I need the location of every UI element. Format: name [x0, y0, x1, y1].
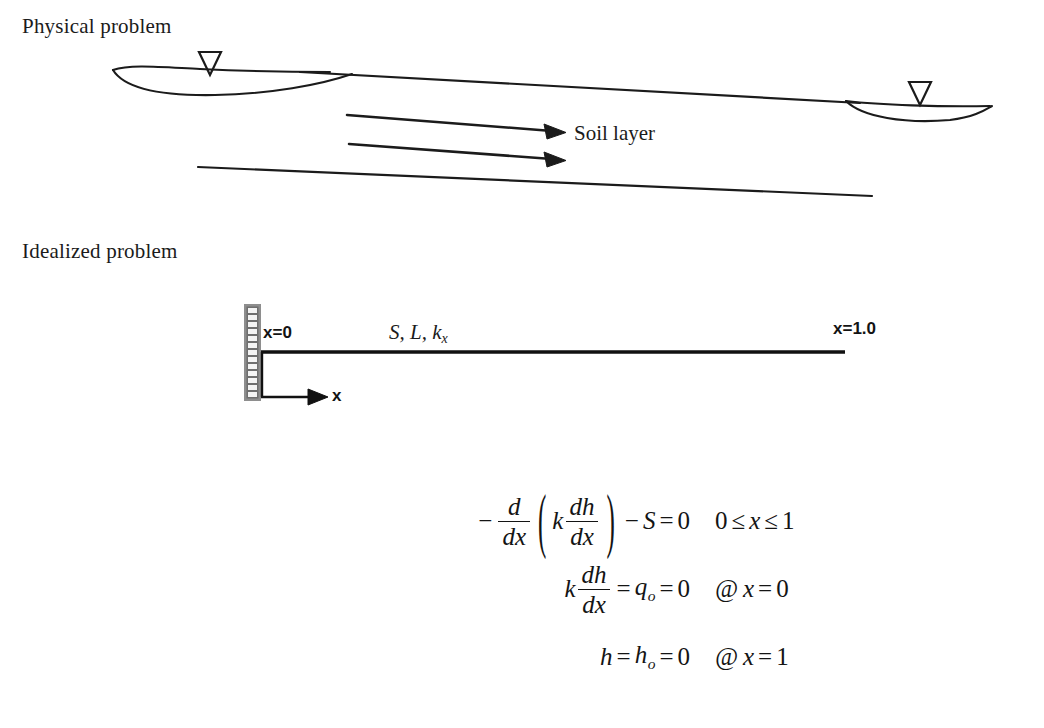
neumann-dx-denominator: dx [578, 589, 610, 618]
neumann-at-variable: x [743, 575, 754, 603]
beam-properties-label: S, L, kx [389, 320, 448, 347]
hatched-fixed-support-icon [244, 304, 261, 401]
source-term-S: S [643, 507, 656, 535]
dirichlet-equals-1: = [613, 643, 635, 671]
paren-close: ) [606, 481, 614, 561]
equals-sign-1: = [655, 507, 677, 535]
neumann-k: k [564, 575, 575, 603]
second-minus-sign: − [621, 507, 643, 535]
d-dx-numerator: d [504, 493, 525, 521]
dh-dx-numerator: dh [565, 493, 598, 521]
flux-q-base: q [635, 573, 648, 600]
neumann-rhs-zero: 0 [678, 575, 691, 603]
domain-variable: x [749, 507, 760, 535]
head-h-naught-subscript: o [647, 655, 655, 672]
neumann-equation-math: k dh dx = qo = 0 [564, 561, 690, 618]
neumann-equals-2: = [655, 575, 677, 603]
diagram-page: Physical problem Soil layer Idealized pr… [0, 0, 1044, 728]
x-zero-boundary-label: x=0 [263, 323, 292, 343]
domain-upper-bound: 1 [782, 507, 795, 535]
dirichlet-at-variable: x [743, 643, 754, 671]
beam-properties-subscript: x [442, 331, 448, 346]
flux-q: qo [635, 573, 656, 604]
governing-equation-expression: − d dx ( k dh dx ) − S = 0 [0, 493, 690, 550]
paren-open: ( [538, 481, 546, 561]
dirichlet-at-equals: = [754, 643, 776, 671]
beam-properties-base: S, L, k [389, 320, 442, 344]
neumann-at-value: 0 [776, 575, 789, 603]
neumann-at-equals: = [754, 575, 776, 603]
governing-equation-math: − d dx ( k dh dx ) − S = 0 [474, 493, 690, 550]
domain-lower-bound: 0 [715, 507, 728, 535]
head-h: h [600, 643, 613, 671]
neumann-at-math: @ x = 0 [715, 575, 789, 603]
head-h-naught-base: h [635, 641, 648, 668]
neumann-equation-expression: k dh dx = qo = 0 [0, 561, 690, 618]
dh-dx-fraction: dh dx [565, 493, 598, 550]
equation-row-neumann: k dh dx = qo = 0 @ x = 0 [0, 555, 1044, 623]
dirichlet-equation-math: h = ho = 0 [600, 641, 690, 672]
neumann-dh-numerator: dh [578, 561, 611, 589]
dh-dx-denominator: dx [566, 521, 598, 550]
equation-row-dirichlet: h = ho = 0 @ x = 1 [0, 623, 1044, 691]
dirichlet-rhs-zero: 0 [678, 643, 691, 671]
x-axis-label: x [332, 386, 341, 406]
less-equal-1: ≤ [728, 507, 750, 535]
head-h-naught: ho [635, 641, 656, 672]
rhs-zero-1: 0 [678, 507, 691, 535]
neumann-condition-location: @ x = 0 [690, 575, 990, 603]
d-dx-fraction-1: d dx [498, 493, 530, 550]
equation-row-governing: − d dx ( k dh dx ) − S = 0 [0, 487, 1044, 555]
permeability-k: k [552, 507, 563, 535]
equation-block: − d dx ( k dh dx ) − S = 0 [0, 487, 1044, 691]
neumann-dh-dx-fraction: dh dx [578, 561, 611, 618]
dirichlet-at-value: 1 [776, 643, 789, 671]
dirichlet-equals-2: = [655, 643, 677, 671]
less-equal-2: ≤ [760, 507, 782, 535]
governing-equation-domain: 0 ≤ x ≤ 1 [690, 507, 990, 535]
at-symbol-1: @ [715, 575, 743, 603]
flux-q-subscript: o [647, 587, 655, 604]
domain-range-math: 0 ≤ x ≤ 1 [715, 507, 795, 535]
d-dx-denominator: dx [498, 521, 530, 550]
leading-minus-sign: − [474, 507, 496, 535]
dirichlet-at-math: @ x = 1 [715, 643, 789, 671]
dirichlet-equation-expression: h = ho = 0 [0, 641, 690, 672]
x-axis-arrow-head [308, 389, 328, 405]
dirichlet-condition-location: @ x = 1 [690, 643, 990, 671]
at-symbol-2: @ [715, 643, 743, 671]
x-one-boundary-label: x=1.0 [833, 319, 876, 339]
neumann-equals-1: = [613, 575, 635, 603]
